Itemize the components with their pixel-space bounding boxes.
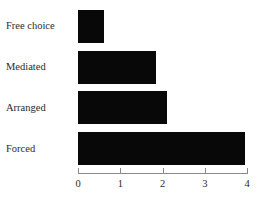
category-axis: Free choiceMediatedArrangedForced bbox=[0, 6, 78, 169]
x-tick-label: 2 bbox=[153, 179, 173, 190]
bar-row bbox=[78, 10, 247, 43]
x-tick-label: 1 bbox=[110, 179, 130, 190]
category-label: Mediated bbox=[0, 62, 72, 73]
x-tick-mark bbox=[163, 168, 164, 174]
x-tick-mark bbox=[205, 168, 206, 174]
category-label: Free choice bbox=[0, 21, 72, 32]
bar bbox=[78, 91, 167, 124]
plot-area bbox=[78, 6, 247, 169]
x-tick-mark bbox=[247, 168, 248, 174]
category-label: Forced bbox=[0, 144, 72, 155]
x-tick-mark bbox=[120, 168, 121, 174]
bar bbox=[78, 10, 104, 43]
x-tick-label: 4 bbox=[237, 179, 257, 190]
bar-row bbox=[78, 91, 247, 124]
bar-chart: Free choiceMediatedArrangedForced 01234 bbox=[0, 0, 260, 202]
bar-row bbox=[78, 132, 247, 165]
category-label: Arranged bbox=[0, 103, 72, 114]
x-tick-label: 3 bbox=[195, 179, 215, 190]
x-tick-label: 0 bbox=[68, 179, 88, 190]
x-tick-mark bbox=[78, 168, 79, 174]
bar-row bbox=[78, 51, 247, 84]
bar bbox=[78, 51, 156, 84]
bar bbox=[78, 132, 245, 165]
